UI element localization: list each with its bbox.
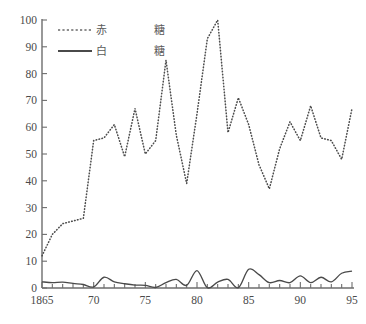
svg-text:80: 80: [26, 68, 38, 80]
series-line-red-sugar: [42, 20, 352, 256]
svg-text:0: 0: [31, 282, 37, 294]
svg-text:95: 95: [346, 294, 358, 306]
svg-text:70: 70: [26, 94, 38, 106]
svg-text:85: 85: [243, 294, 255, 306]
svg-text:40: 40: [26, 175, 38, 187]
chart-canvas: 0102030405060708090100 1865707580859095 …: [0, 0, 366, 324]
svg-text:70: 70: [88, 294, 100, 306]
svg-text:80: 80: [191, 294, 203, 306]
svg-text:20: 20: [26, 228, 38, 240]
chart-legend: 赤 糖 白 糖: [58, 23, 165, 58]
x-tick-labels: 1865707580859095: [31, 294, 359, 306]
svg-text:50: 50: [26, 148, 38, 160]
legend-label-red-sugar: 糖: [154, 23, 165, 37]
figure-caption: [24, 313, 324, 324]
axes-group: [42, 19, 354, 288]
x-tickmarks: [42, 282, 352, 288]
svg-text:100: 100: [20, 14, 38, 26]
series-group: [42, 20, 352, 288]
svg-text:60: 60: [26, 121, 38, 133]
svg-text:1865: 1865: [31, 294, 54, 306]
svg-text:90: 90: [26, 41, 38, 53]
svg-text:90: 90: [295, 294, 307, 306]
svg-text:30: 30: [26, 202, 38, 214]
legend-label-red-color: 赤: [96, 24, 107, 37]
chart-figure: 0102030405060708090100 1865707580859095 …: [0, 0, 366, 324]
svg-text:75: 75: [140, 294, 152, 306]
legend-label-white-sugar: 糖: [154, 44, 165, 58]
y-tick-labels: 0102030405060708090100: [20, 14, 38, 294]
legend-label-white-color: 白: [96, 44, 107, 58]
svg-text:10: 10: [26, 255, 38, 267]
